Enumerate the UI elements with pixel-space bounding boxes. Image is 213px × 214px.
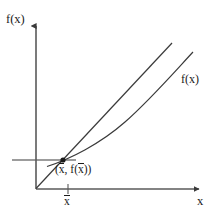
figure-canvas xyxy=(0,0,213,214)
curve-label: f(x) xyxy=(181,73,199,85)
point-label-close: )) xyxy=(84,163,92,175)
y-axis-label: f(x) xyxy=(6,13,25,26)
function-curve xyxy=(47,52,193,167)
x-axis-label: x xyxy=(197,195,203,208)
convexity-figure: f(x) x f(x) (x, f(x)) x xyxy=(0,0,213,214)
point-label-x-bar-2: x xyxy=(78,164,84,176)
x-bar-tick-text: x xyxy=(64,196,70,208)
point-label-x-bar: x xyxy=(59,164,65,176)
point-label-comma: , f( xyxy=(65,163,78,175)
tangent-point-label: (x, f(x)) xyxy=(55,164,91,176)
x-bar-tick-label: x xyxy=(64,196,70,208)
tangent-point-marker xyxy=(60,157,65,162)
